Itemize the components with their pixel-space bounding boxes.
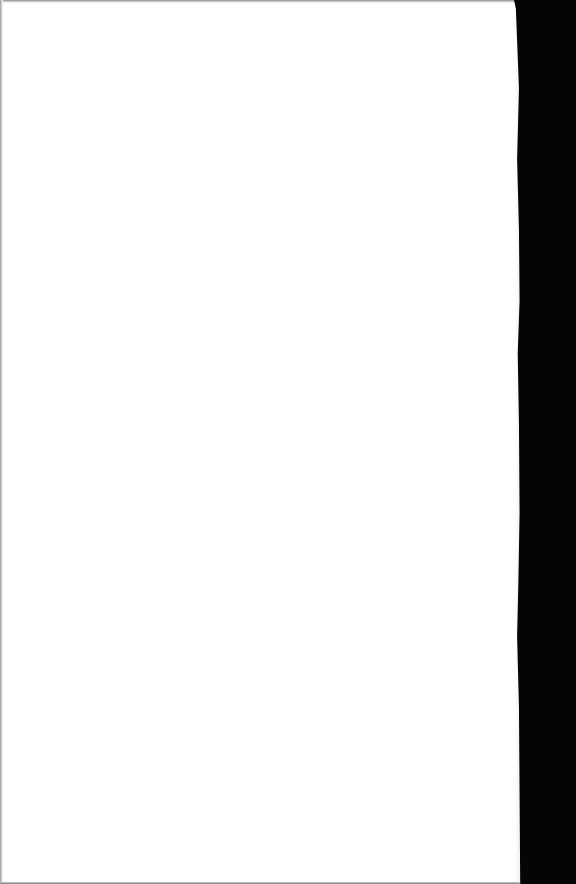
scanned-page (0, 0, 576, 884)
left-scan-shadow (0, 0, 3, 884)
blank-paper-sheet (0, 0, 516, 884)
book-binding-edge (514, 0, 576, 884)
top-scan-shadow (0, 0, 520, 3)
